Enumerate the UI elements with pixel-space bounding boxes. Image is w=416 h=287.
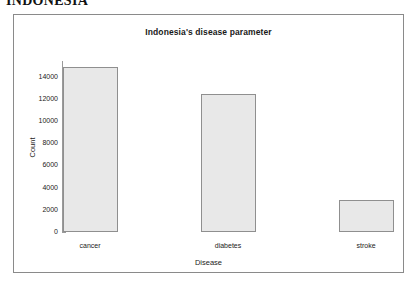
x-axis-tick-label-cancer: cancer [50,242,130,249]
x-axis-tick-label-diabetes: diabetes [188,242,268,249]
x-axis-title: Disease [14,258,403,267]
bar-cancer [63,67,118,232]
bar-diabetes [201,94,256,232]
y-axis-tick-label: 10000 [24,117,58,124]
y-axis-tick-label: 0 [24,228,58,235]
y-axis-title: Count [28,128,37,168]
page-header: INDONESIA [6,0,88,9]
y-axis-tick-label: 2000 [24,206,58,213]
chart-frame: Indonesia's disease parameter 0200040006… [13,14,404,273]
y-axis-tick-label: 14000 [24,73,58,80]
bar-stroke [339,200,394,232]
y-axis-tick-label: 4000 [24,184,58,191]
bar-chart-plot: 02000400060008000100001200014000 Count c… [14,15,403,272]
y-axis-tick-label: 12000 [24,95,58,102]
x-axis-tick-label-stroke: stroke [326,242,406,249]
y-axis-tick [62,232,66,233]
